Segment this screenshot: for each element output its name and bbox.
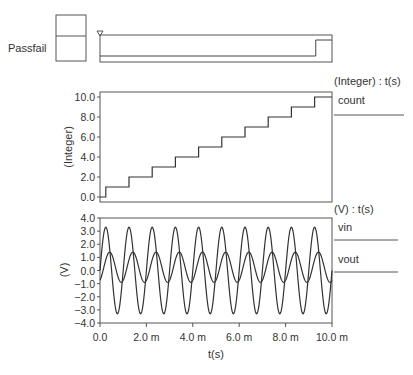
voltage-chart: (V) : t(s) 4.03.02.01.00.0−1.0−2.0−3.0−4… [58, 203, 398, 360]
legend-vin-label: vin [338, 221, 352, 233]
y-tick-label: 1.0 [80, 251, 95, 263]
count-trace [100, 97, 332, 197]
passfail-trace-box [100, 35, 332, 62]
y-tick-label: 2.0 [80, 238, 95, 250]
count-y-axis-label: (Integer) [62, 126, 74, 168]
voltage-chart-title: (V) : t(s) [334, 203, 374, 215]
y-tick-label: −1.0 [74, 278, 95, 290]
count-chart-title: (Integer) : t(s) [334, 75, 401, 87]
y-tick-label: 3.0 [80, 225, 95, 237]
passfail-indicator-box [56, 15, 86, 61]
legend-vout-label: vout [338, 253, 359, 265]
y-tick-label: 10.0 [75, 91, 96, 103]
waveform-viewer: Passfail (Integer) : t(s) 0.02.04.06.08.… [0, 0, 413, 375]
x-tick-label: 4.0 m [180, 331, 207, 343]
y-tick-label: 0.0 [80, 265, 95, 277]
y-tick-label: 4.0 [80, 151, 95, 163]
voltage-y-axis-label: (V) [58, 263, 70, 278]
y-tick-label: −2.0 [74, 291, 95, 303]
passfail-section: Passfail [8, 15, 332, 62]
y-tick-label: 2.0 [80, 171, 95, 183]
count-chart: (Integer) : t(s) 0.02.04.06.08.010.0 (In… [62, 75, 404, 203]
vin-trace [100, 227, 332, 314]
y-tick-label: 0.0 [80, 191, 95, 203]
y-tick-label: −4.0 [74, 317, 95, 329]
y-tick-label: 6.0 [80, 131, 95, 143]
x-axis-label: t(s) [208, 348, 224, 360]
x-tick-label: 10.0 m [316, 331, 348, 343]
legend-count-label: count [338, 94, 365, 106]
x-tick-label: 8.0 m [272, 331, 299, 343]
x-tick-label: 6.0 m [226, 331, 253, 343]
passfail-trace [100, 40, 332, 56]
x-tick-label: 2.0 m [133, 331, 160, 343]
passfail-label: Passfail [8, 42, 47, 54]
y-tick-label: 8.0 [80, 111, 95, 123]
x-tick-label: 0.0 [93, 331, 108, 343]
y-tick-label: 4.0 [80, 212, 95, 224]
y-tick-label: −3.0 [74, 304, 95, 316]
